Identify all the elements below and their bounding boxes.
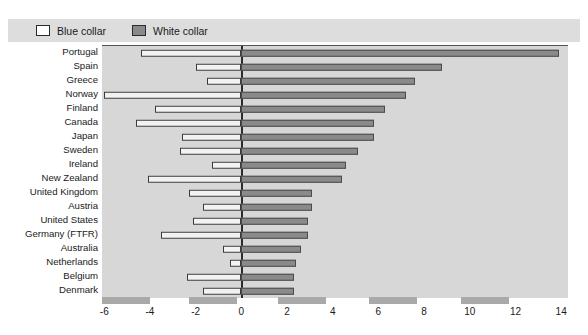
category-label: United States: [0, 214, 98, 227]
bar-white-collar: [241, 218, 307, 225]
chart-row: [102, 270, 568, 284]
x-axis-tick-label: -2: [191, 306, 200, 317]
bar-blue-collar: [207, 78, 241, 85]
chart-row: [102, 242, 568, 256]
bar-blue-collar: [196, 64, 242, 71]
category-label: New Zealand: [0, 172, 98, 185]
category-label: Japan: [0, 130, 98, 143]
x-axis-tick-label: 2: [284, 306, 290, 317]
x-axis-tick-label: 14: [556, 306, 567, 317]
bar-blue-collar: [141, 50, 242, 57]
axis-decoration-band: [102, 297, 568, 304]
chart-row: [102, 60, 568, 74]
bar-blue-collar: [187, 274, 242, 281]
legend-label-white-collar: White collar: [153, 25, 208, 37]
chart-row: [102, 228, 568, 242]
bar-white-collar: [241, 204, 312, 211]
x-axis-tick-label: 10: [464, 306, 475, 317]
chart-row: [102, 130, 568, 144]
bar-white-collar: [241, 274, 294, 281]
legend-item-white-collar: White collar: [132, 19, 208, 42]
bar-white-collar: [241, 106, 385, 113]
category-label: Denmark: [0, 284, 98, 297]
bar-blue-collar: [212, 162, 242, 169]
x-axis-tick-label: 12: [510, 306, 521, 317]
chart-root: Blue collar White collar PortugalSpainGr…: [0, 0, 588, 335]
x-axis-tick-label: -6: [100, 306, 109, 317]
bar-white-collar: [241, 50, 559, 57]
bar-white-collar: [241, 162, 346, 169]
bar-white-collar: [241, 246, 300, 253]
x-axis: -6-4-202468101214: [0, 306, 588, 326]
bar-blue-collar: [161, 232, 241, 239]
bar-blue-collar: [180, 148, 242, 155]
bar-white-collar: [241, 260, 296, 267]
legend-swatch-blue-collar-icon: [36, 25, 50, 36]
chart-row: [102, 158, 568, 172]
bars-container: [102, 46, 568, 298]
bar-blue-collar: [223, 246, 241, 253]
category-label: Norway: [0, 88, 98, 101]
bar-blue-collar: [155, 106, 242, 113]
bar-white-collar: [241, 134, 373, 141]
category-label: Belgium: [0, 270, 98, 283]
category-label: Greece: [0, 74, 98, 87]
chart-row: [102, 144, 568, 158]
bar-blue-collar: [182, 134, 241, 141]
axis-band-segment: [369, 297, 417, 304]
category-label: Finland: [0, 102, 98, 115]
bar-blue-collar: [148, 176, 242, 183]
x-axis-tick-label: -4: [146, 306, 155, 317]
bar-blue-collar: [203, 204, 242, 211]
category-axis-labels: PortugalSpainGreeceNorwayFinlandCanadaJa…: [0, 45, 98, 297]
bar-white-collar: [241, 190, 312, 197]
chart-legend: Blue collar White collar: [8, 19, 580, 42]
bar-white-collar: [241, 78, 415, 85]
chart-row: [102, 88, 568, 102]
axis-band-segment: [189, 297, 237, 304]
chart-row: [102, 116, 568, 130]
bar-white-collar: [241, 120, 373, 127]
x-axis-tick-label: 4: [330, 306, 336, 317]
category-label: Austria: [0, 200, 98, 213]
bar-white-collar: [241, 288, 294, 295]
chart-row: [102, 46, 568, 60]
x-axis-tick-label: 8: [421, 306, 427, 317]
axis-band-segment: [102, 297, 150, 304]
bar-blue-collar: [203, 288, 242, 295]
chart-row: [102, 172, 568, 186]
chart-row: [102, 200, 568, 214]
chart-row: [102, 284, 568, 298]
bar-blue-collar: [230, 260, 241, 267]
category-label: Canada: [0, 116, 98, 129]
axis-band-segment: [461, 297, 509, 304]
category-label: Portugal: [0, 46, 98, 59]
category-label: United Kingdom: [0, 186, 98, 199]
bar-blue-collar: [193, 218, 241, 225]
plot-area: [102, 45, 568, 298]
x-axis-tick-label: 6: [376, 306, 382, 317]
category-label: Germany (FTFR): [0, 228, 98, 241]
category-label: Sweden: [0, 144, 98, 157]
chart-row: [102, 214, 568, 228]
bar-white-collar: [241, 92, 405, 99]
bar-white-collar: [241, 232, 307, 239]
category-label: Netherlands: [0, 256, 98, 269]
bar-white-collar: [241, 176, 342, 183]
axis-band-segment: [278, 297, 326, 304]
bar-white-collar: [241, 148, 358, 155]
category-label: Ireland: [0, 158, 98, 171]
chart-row: [102, 256, 568, 270]
legend-swatch-white-collar-icon: [132, 25, 146, 36]
chart-row: [102, 102, 568, 116]
bar-white-collar: [241, 64, 442, 71]
chart-row: [102, 74, 568, 88]
category-label: Spain: [0, 60, 98, 73]
bar-blue-collar: [136, 120, 241, 127]
category-label: Australia: [0, 242, 98, 255]
legend-item-blue-collar: Blue collar: [36, 19, 106, 42]
chart-row: [102, 186, 568, 200]
bar-blue-collar: [189, 190, 242, 197]
legend-label-blue-collar: Blue collar: [57, 25, 106, 37]
x-axis-tick-label: 0: [239, 306, 245, 317]
